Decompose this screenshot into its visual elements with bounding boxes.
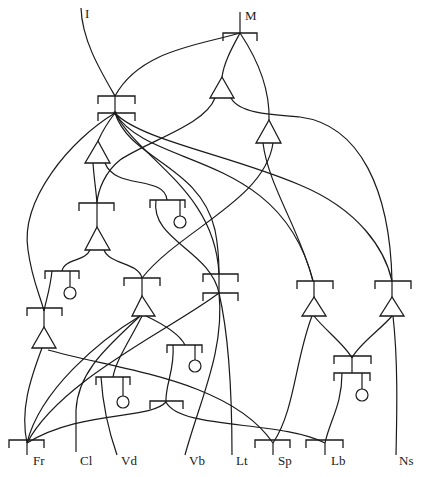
- wire-spb-merge: [314, 316, 352, 358]
- wire-spb-sp: [273, 316, 312, 443]
- label-m: M: [245, 8, 257, 23]
- wire-hub-c: [98, 113, 115, 141]
- wire-c-f: [105, 163, 167, 200]
- bracket-ns-branch: [375, 281, 411, 289]
- label-i: I: [85, 6, 89, 21]
- wire-c-d: [93, 163, 97, 203]
- wire-mid-fr: [27, 402, 166, 443]
- wire-hub-h: [27, 113, 115, 311]
- triangle-j: [32, 327, 56, 348]
- label-vd: Vd: [121, 453, 137, 468]
- network-diagram: I M: [0, 0, 421, 477]
- label-fr: Fr: [33, 453, 45, 468]
- triangle-l: [132, 296, 155, 316]
- label-lb: Lb: [331, 453, 345, 468]
- wire-lt-vb: [185, 293, 220, 455]
- triangle-c: [85, 141, 110, 163]
- wire-merge-lb: [325, 373, 342, 443]
- label-ns: Ns: [399, 453, 413, 468]
- triangle-b: [256, 120, 281, 143]
- wire-nsb-merge: [352, 316, 392, 358]
- wire-j-sp: [48, 350, 273, 443]
- triangle-sp-branch: [302, 297, 326, 316]
- wire-e-k: [104, 250, 142, 278]
- triangle-ns-branch: [380, 297, 404, 316]
- wire-l-vd: [113, 316, 142, 377]
- triangle-e: [85, 227, 110, 250]
- wire-hub-mid: [115, 113, 219, 274]
- wire-hub-spb: [115, 113, 313, 281]
- label-lt: Lt: [236, 453, 248, 468]
- bracket-sp-branch: [297, 281, 333, 289]
- wire-a-ns: [231, 98, 392, 281]
- wire-j-fr: [25, 348, 42, 443]
- wire-e-g: [62, 250, 90, 271]
- label-sp: Sp: [278, 453, 292, 468]
- label-cl: Cl: [80, 453, 93, 468]
- input-i-line: [81, 8, 115, 96]
- wire-b-sp-branch: [263, 143, 313, 281]
- wire-nsb-ns: [393, 316, 397, 455]
- label-vb: Vb: [189, 453, 205, 468]
- wire-vbb-mid: [166, 345, 173, 402]
- wire-hub-nsb: [115, 113, 392, 281]
- triangle-a: [210, 77, 234, 98]
- wire-l-vbb: [146, 316, 185, 345]
- wire-lt-out: [219, 293, 232, 455]
- wire-m-tri-b: [240, 33, 269, 120]
- wire-m-tri-a: [222, 33, 240, 77]
